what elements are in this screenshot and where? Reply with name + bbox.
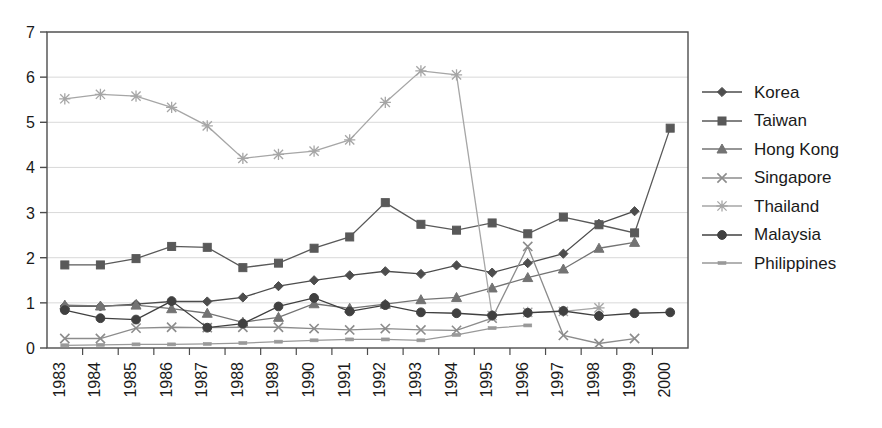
marker-circle: [60, 306, 69, 315]
marker-square: [310, 244, 318, 252]
marker-circle: [203, 323, 212, 332]
legend-item-taiwan[interactable]: Taiwan: [700, 107, 882, 136]
legend-marker-asterisk-icon: [700, 199, 744, 213]
line-chart: 0123456719831984198519861987198819891990…: [0, 0, 700, 428]
marker-dash: [239, 342, 247, 345]
marker-asterisk: [308, 146, 319, 157]
marker-dash: [274, 340, 282, 343]
marker-circle: [238, 319, 247, 328]
series-taiwan: [61, 124, 674, 271]
marker-cross: [559, 331, 568, 340]
legend-item-malaysia[interactable]: Malaysia: [700, 221, 882, 250]
marker-circle: [630, 309, 639, 318]
marker-dash: [203, 342, 211, 345]
marker-square: [132, 255, 140, 263]
marker-square: [595, 221, 603, 229]
marker-diamond: [381, 267, 390, 276]
marker-square: [718, 117, 726, 125]
marker-asterisk: [202, 120, 213, 131]
marker-asterisk: [237, 153, 248, 164]
marker-asterisk: [130, 91, 141, 102]
series-thailand: [59, 65, 604, 321]
xtick-label: 1985: [122, 362, 139, 398]
marker-dash: [346, 338, 354, 341]
legend-swatch-svg: [700, 114, 744, 128]
legend-item-thailand[interactable]: Thailand: [700, 192, 882, 221]
legend-item-hong-kong[interactable]: Hong Kong: [700, 135, 882, 164]
ytick-label: 1: [26, 295, 35, 312]
legend-marker-cross-icon: [700, 171, 744, 185]
marker-asterisk: [273, 149, 284, 160]
marker-dash: [132, 343, 140, 346]
ytick-label: 4: [26, 159, 35, 176]
marker-square: [559, 213, 567, 221]
series-line: [65, 128, 670, 267]
ytick-label: 3: [26, 205, 35, 222]
legend-label: Korea: [744, 84, 799, 101]
xtick-label: 1986: [158, 362, 175, 398]
marker-dash: [61, 344, 69, 347]
legend-swatch-svg: [700, 85, 744, 99]
marker-diamond: [274, 282, 283, 291]
marker-triangle: [630, 237, 640, 246]
marker-asterisk: [95, 89, 106, 100]
marker-circle: [274, 302, 283, 311]
legend-item-korea[interactable]: Korea: [700, 78, 882, 107]
xtick-label: 1988: [229, 362, 246, 398]
legend-marker-triangle-icon: [700, 142, 744, 156]
marker-circle: [559, 307, 568, 316]
legend-item-philippines[interactable]: Philippines: [700, 249, 882, 278]
legend-label: Hong Kong: [744, 141, 839, 158]
marker-dash: [524, 324, 532, 327]
legend-item-singapore[interactable]: Singapore: [700, 164, 882, 193]
marker-square: [666, 124, 674, 132]
marker-circle: [167, 297, 176, 306]
marker-square: [61, 261, 69, 269]
legend-swatch-svg: [700, 199, 744, 213]
legend-label: Thailand: [744, 198, 819, 215]
marker-diamond: [717, 88, 726, 97]
marker-square: [203, 243, 211, 251]
marker-circle: [523, 308, 532, 317]
marker-square: [417, 220, 425, 228]
legend-marker-diamond-icon: [700, 85, 744, 99]
marker-circle: [595, 312, 604, 321]
xtick-label: 1992: [371, 362, 388, 398]
marker-circle: [132, 315, 141, 324]
series-malaysia: [60, 293, 674, 332]
marker-dash: [310, 339, 318, 342]
series-line: [65, 71, 599, 316]
marker-dash: [718, 262, 726, 265]
xtick-label: 1998: [585, 362, 602, 398]
marker-dash: [96, 343, 104, 346]
marker-square: [631, 229, 639, 237]
marker-asterisk: [415, 65, 426, 76]
legend-label: Taiwan: [744, 112, 807, 129]
marker-square: [168, 242, 176, 250]
xtick-label: 1991: [336, 362, 353, 398]
plot-frame: [47, 32, 688, 348]
legend-swatch-svg: [700, 256, 744, 270]
legend-swatch-svg: [700, 142, 744, 156]
marker-square: [96, 261, 104, 269]
marker-asterisk: [380, 97, 391, 108]
marker-asterisk: [166, 102, 177, 113]
ytick-label: 5: [26, 114, 35, 131]
ytick-label: 7: [26, 24, 35, 41]
legend-marker-square-icon: [700, 114, 744, 128]
marker-diamond: [238, 293, 247, 302]
marker-asterisk: [716, 201, 727, 212]
xtick-label: 1999: [621, 362, 638, 398]
chart-canvas: 0123456719831984198519861987198819891990…: [0, 0, 700, 428]
legend-marker-circle-icon: [700, 228, 744, 242]
marker-square: [453, 226, 461, 234]
marker-square: [381, 199, 389, 207]
marker-triangle: [558, 264, 568, 273]
marker-dash: [168, 343, 176, 346]
marker-square: [488, 219, 496, 227]
marker-circle: [666, 308, 675, 317]
chart-page: 0123456719831984198519861987198819891990…: [0, 0, 882, 428]
marker-circle: [381, 301, 390, 310]
xtick-label: 1990: [300, 362, 317, 398]
legend-label: Singapore: [744, 169, 832, 186]
